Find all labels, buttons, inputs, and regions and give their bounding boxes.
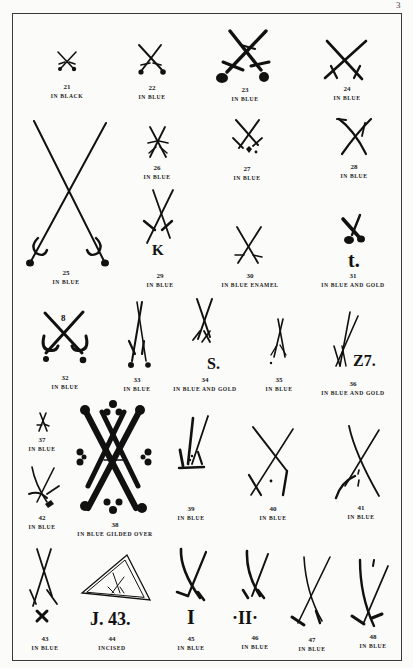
crossed-swords-icon [231, 118, 265, 158]
svg-text:·II·: ·II· [232, 608, 258, 628]
svg-text:8: 8 [61, 313, 66, 323]
crossed-swords-icon [336, 116, 374, 156]
incised-triangle-mark-icon: J. 43. [80, 553, 160, 631]
crossed-swords-icon [36, 411, 50, 433]
mark-22-caption: 22 IN BLUE [125, 85, 179, 101]
mark-35-caption: 35 IN BLUE [252, 377, 306, 393]
crossed-swords-icon: t. [340, 213, 376, 271]
mark-21-caption: 21 IN BLACK [40, 84, 94, 100]
crossed-swords-icon [213, 28, 273, 82]
crossed-swords-icon [268, 317, 290, 369]
mark-48-caption: 48 IN BLUE [346, 634, 400, 650]
crossed-swords-icon [27, 546, 61, 626]
crossed-swords-icon: K [142, 188, 178, 258]
crossed-swords-icon [146, 125, 170, 159]
mark-39-caption: 39 IN BLUE [164, 506, 218, 522]
mark-29-caption: 29 IN BLUE [133, 273, 187, 289]
mark-30-caption: 30 IN BLUE ENAMEL [213, 273, 287, 289]
mark-43-caption: 43 IN BLUE [18, 636, 72, 652]
mark-42-caption: 42 IN BLUE [20, 515, 64, 531]
crossed-swords-icon [27, 464, 63, 510]
crossed-swords-icon [333, 424, 383, 500]
crossed-swords-icon: ·II· [228, 548, 284, 628]
mark-40-caption: 40 IN BLUE [246, 506, 300, 522]
crossed-swords-icon [176, 414, 212, 472]
crossed-swords-icon [234, 225, 264, 267]
crossed-swords-icon [135, 42, 169, 76]
crossed-swords-icon [124, 299, 154, 369]
crossed-swords-icon [247, 425, 295, 499]
svg-text:Z7.: Z7. [353, 352, 376, 369]
crossed-swords-ornament-icon [76, 400, 152, 520]
crossed-swords-icon [350, 556, 392, 636]
mark-41-caption: 41 IN BLUE [334, 505, 388, 521]
mark-33-caption: 33 IN BLUE [110, 377, 164, 393]
mark-45-caption: 45 IN BLUE [164, 636, 218, 652]
mark-46-caption: 46 IN BLUE [228, 635, 282, 651]
mark-25-caption: 25 IN BLUE [39, 270, 93, 286]
crossed-swords-icon: 8 [40, 308, 90, 368]
crossed-swords-icon [55, 48, 79, 72]
svg-text:S.: S. [207, 355, 220, 372]
crossed-swords-icon [322, 38, 370, 82]
mark-44-caption: 44 INCISED [85, 636, 139, 652]
svg-text:I: I [187, 606, 195, 628]
mark-31-caption: 31 IN BLUE AND GOLD [310, 273, 396, 289]
crossed-swords-icon [290, 553, 334, 633]
mark-28-caption: 28 IN BLUE [327, 164, 381, 180]
mark-34-caption: 34 IN BLUE AND GOLD [162, 377, 248, 393]
mark-37-caption: 37 IN BLUE [20, 437, 64, 453]
mark-23-caption: 23 IN BLUE [218, 87, 272, 103]
mark-24-caption: 24 IN BLUE [320, 86, 374, 102]
mark-47-caption: 47 IN BLUE [285, 637, 339, 653]
mark-26-caption: 26 IN BLUE [130, 165, 184, 181]
mark-38-caption: 38 IN BLUE GILDED OVER [68, 522, 162, 538]
crossed-swords-icon: S. [190, 297, 232, 375]
crossed-swords-icon: Z7. [332, 310, 394, 372]
svg-text:K: K [152, 242, 164, 258]
svg-text:J. 43.: J. 43. [90, 609, 131, 629]
crossed-swords-icon: I [174, 546, 214, 628]
page-number: 3 [396, 0, 401, 10]
svg-text:t.: t. [348, 249, 360, 271]
mark-32-caption: 32 IN BLUE [38, 375, 92, 391]
mark-27-caption: 27 IN BLUE [220, 166, 274, 182]
crossed-swords-icon [24, 118, 110, 268]
mark-36-caption: 36 IN BLUE AND GOLD [306, 381, 400, 397]
